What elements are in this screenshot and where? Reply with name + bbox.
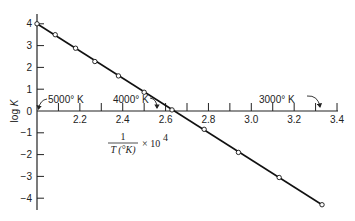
y-tick-label: 3 (26, 40, 32, 51)
y-tick-label: −3 (21, 171, 33, 182)
chart-canvas: 43210−1−2−3−42.22.42.62.83.03.23.4 5000°… (0, 0, 355, 221)
x-tick-label: 2.8 (201, 114, 215, 125)
y-axis-title: log K (9, 98, 20, 122)
x-tick-label: 2.6 (159, 114, 173, 125)
y-tick-label: 4 (26, 18, 32, 29)
x-tick-label: 2.2 (73, 114, 87, 125)
data-point-marker (202, 127, 206, 131)
data-point-marker (93, 59, 97, 63)
x-axis-title-numerator: 1 (121, 131, 126, 142)
data-point-marker (73, 46, 77, 50)
annotation-label: 5000° K (48, 94, 84, 105)
data-point-marker (35, 22, 39, 26)
x-axis-title-multiplier: × 10 (142, 138, 160, 149)
x-tick-label: 3.2 (287, 114, 301, 125)
data-point-marker (53, 33, 57, 37)
y-tick-label: 0 (26, 106, 32, 117)
x-axis-title-exponent: 4 (163, 132, 168, 143)
y-tick-label: 1 (26, 84, 32, 95)
data-point-marker (320, 203, 324, 207)
y-tick-label: −4 (21, 193, 33, 204)
y-tick-label: −1 (21, 127, 33, 138)
y-tick-label: 2 (26, 62, 32, 73)
annotation-arrow (39, 99, 48, 109)
data-point-marker (116, 74, 120, 78)
annotation-label: 3000° K (259, 94, 295, 105)
data-point-marker (170, 108, 174, 112)
log-k-vs-inverse-temperature-chart: 43210−1−2−3−42.22.42.62.83.03.23.4 5000°… (0, 0, 355, 221)
y-tick-label: −2 (21, 149, 33, 160)
x-axis-title-denominator: T (°K) (110, 144, 136, 156)
temperature-annotations: 5000° K4000° K3000° K (39, 94, 321, 109)
x-tick-label: 3.0 (244, 114, 258, 125)
x-tick-label: 3.4 (330, 114, 344, 125)
annotation-label: 4000° K (113, 94, 149, 105)
data-point-marker (236, 150, 240, 154)
x-tick-label: 2.4 (116, 114, 130, 125)
annotation-arrow (307, 96, 320, 107)
data-point-marker (277, 175, 281, 179)
